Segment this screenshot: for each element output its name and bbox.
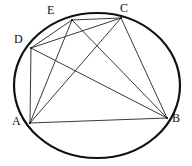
- vertex-label-e: E: [47, 4, 54, 16]
- chord-db: [31, 48, 167, 118]
- vertex-point-d: [30, 47, 32, 49]
- vertex-point-c: [120, 17, 122, 19]
- geometry-figure: ABCDE: [0, 0, 192, 166]
- vertex-label-d: D: [14, 33, 23, 45]
- chord-ec: [72, 18, 121, 20]
- vertex-point-e: [71, 19, 73, 21]
- circle-outline: [14, 13, 180, 158]
- vertex-point-a: [29, 122, 31, 124]
- vertex-label-b: B: [172, 112, 180, 124]
- chord-ca: [30, 18, 121, 123]
- geometry-canvas: [0, 0, 192, 166]
- chord-da: [30, 48, 31, 123]
- vertex-label-c: C: [120, 2, 128, 14]
- chord-ab: [30, 118, 167, 123]
- vertex-label-a: A: [12, 115, 21, 127]
- chord-cb: [121, 18, 167, 118]
- vertex-point-b: [166, 117, 168, 119]
- chord-layer: [30, 18, 167, 123]
- chord-eb: [72, 20, 167, 118]
- circle-layer: [14, 13, 180, 158]
